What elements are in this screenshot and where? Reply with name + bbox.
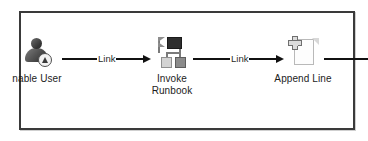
connector-line-segment [62, 58, 97, 61]
node-append-line[interactable]: Append Line [255, 36, 351, 85]
connector-line-segment [193, 58, 230, 60]
node-append-line-label: Append Line [255, 73, 351, 85]
runbook-antenna-icon [158, 37, 165, 47]
document-fold-corner [312, 38, 319, 45]
runbook-node-box-right [175, 57, 186, 68]
runbook-network-icon [155, 36, 189, 70]
connector-link-2-label: Link [230, 54, 249, 64]
runbook-node-box-left [161, 57, 172, 68]
runbook-screen-shape [167, 37, 182, 49]
connector-link-1-label: Link [97, 54, 116, 64]
node-enable-user-label: nable User [0, 73, 85, 85]
user-head-shape [31, 38, 42, 49]
runbook-wire [166, 52, 180, 54]
plus-badge-fill [293, 41, 298, 46]
document-add-icon [286, 36, 320, 70]
diagram-canvas: nable User Link Invoke Runbook Link [0, 0, 368, 141]
up-arrow-badge-icon [38, 53, 52, 67]
user-enable-icon [20, 36, 54, 70]
connector-link-3-stub[interactable] [324, 58, 368, 61]
node-invoke-runbook-label: Invoke Runbook [124, 73, 220, 97]
